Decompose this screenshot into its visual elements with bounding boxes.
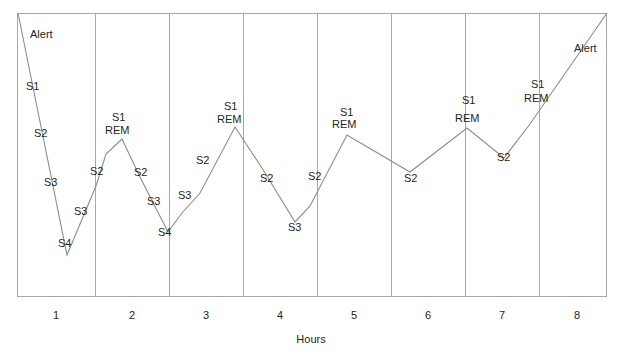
x-tick-5: 5 [351, 309, 357, 321]
annotation-rem-e: REM [524, 92, 548, 104]
x-tick-7: 7 [499, 309, 505, 321]
annotation-rem-b: REM [217, 113, 241, 125]
x-axis-title: Hours [296, 333, 326, 345]
annotation-s2-a: S2 [34, 127, 47, 139]
gridlines [96, 14, 540, 297]
annotation-alert-start: Alert [30, 28, 53, 40]
annotation-s2-d: S2 [196, 154, 209, 166]
annotation-s2-e: S2 [260, 172, 273, 184]
x-tick-6: 6 [425, 309, 431, 321]
annotation-s4-a: S4 [58, 237, 71, 249]
annotation-s3-c: S3 [147, 195, 160, 207]
annotation-s1-c: S1 [224, 100, 237, 112]
x-tick-1: 1 [53, 309, 59, 321]
annotation-s1-b: S1 [112, 111, 125, 123]
annotation-s2-c: S2 [134, 166, 147, 178]
x-tick-3: 3 [203, 309, 209, 321]
annotation-s2-f: S2 [308, 170, 321, 182]
annotation-rem-a: REM [105, 124, 129, 136]
x-axis-ticks: 1 2 3 4 5 6 7 8 [53, 309, 580, 321]
annotation-s3-b: S3 [74, 205, 87, 217]
annotation-rem-d: REM [455, 112, 479, 124]
x-tick-2: 2 [129, 309, 135, 321]
hypnogram-svg: Alert S1 S2 S3 S4 S3 S2 S1 REM S2 S3 S4 … [0, 0, 621, 360]
annotation-s2-h: S2 [497, 151, 510, 163]
annotation-s1-d: S1 [340, 106, 353, 118]
annotation-s3-e: S3 [288, 221, 301, 233]
annotation-s3-d: S3 [178, 189, 191, 201]
annotation-s4-b: S4 [158, 226, 171, 238]
annotation-s1-e: S1 [462, 94, 475, 106]
annotation-s2-b: S2 [90, 165, 103, 177]
stage-annotations: Alert S1 S2 S3 S4 S3 S2 S1 REM S2 S3 S4 … [26, 28, 597, 249]
annotation-rem-c: REM [332, 118, 356, 130]
hypnogram-chart: Alert S1 S2 S3 S4 S3 S2 S1 REM S2 S3 S4 … [0, 0, 621, 360]
annotation-s1-a: S1 [26, 80, 39, 92]
annotation-s3-a: S3 [44, 176, 57, 188]
annotation-s2-g: S2 [404, 172, 417, 184]
annotation-s1-f: S1 [531, 78, 544, 90]
x-tick-4: 4 [277, 309, 283, 321]
annotation-alert-end: Alert [574, 42, 597, 54]
x-tick-8: 8 [574, 309, 580, 321]
